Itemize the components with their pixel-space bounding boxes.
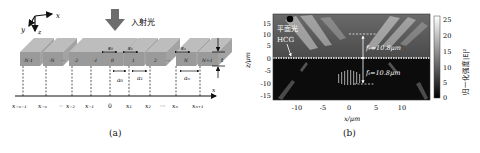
panel-b-caption: (b) [343, 128, 356, 138]
x-tick-label: -10 [292, 104, 302, 112]
annotation-plane-wave: 平面光 [277, 24, 298, 33]
y-tick-label: 15 [263, 20, 271, 28]
x-tick-label: x₋ₙ₋₁ [12, 102, 27, 109]
colorbar-label: 归一化强度|E|² [461, 49, 470, 95]
x-tick-labels: x₋ₙ₋₁ x₋ₙ ·· x₋₂ x₋₁ 0 x₁ x₂ ··· xₙ xₙ₊₁ [12, 102, 203, 109]
y-tick-label: -10 [261, 80, 271, 88]
y-tick-label: 0 [267, 55, 271, 63]
position-guide-lines [23, 66, 200, 96]
gap-label-a0: a₀ [117, 76, 124, 83]
width-label-s0: s₀ [108, 45, 114, 51]
x-tick-label: 10 [398, 104, 406, 112]
triad-x-label: x [56, 12, 60, 20]
colorbar-tick-label: 15 [443, 48, 451, 56]
bar-label: ··· [61, 58, 66, 63]
x-axis-label: x [212, 86, 216, 93]
incident-light-label: 入射光 [131, 17, 155, 27]
bar-label: 2 [153, 58, 157, 63]
bar-label: -2 [74, 58, 79, 63]
colorbar-tick-label: 10 [443, 64, 451, 72]
x-tick-label: x₋ₙ [38, 102, 48, 109]
gap-label-aN: aₙ [184, 74, 191, 81]
triad-y-label: y [20, 26, 26, 34]
y-tick-label: 5 [267, 42, 271, 50]
panel-a-grating-schematic: x y z 入射光 [0, 0, 240, 153]
bar-label: 0 [111, 58, 114, 63]
x-tick-label: xₙ [172, 102, 178, 109]
annotation-hcg: HCG [277, 36, 294, 44]
x-tick-label: -5 [320, 104, 326, 112]
panel-a-caption: (a) [109, 128, 121, 138]
bar-label: 1 [132, 58, 135, 63]
panel-b-field-intensity-map: 平面光 HCG fᵣ=10.8μm fₜ=10.8μm 15 10 5 0 -5… [240, 0, 480, 153]
x-tick-label: x₂ [145, 102, 151, 109]
x-tick-label: x₋₁ [85, 102, 94, 109]
colorbar-tick-label: 20 [443, 32, 451, 40]
incident-light-arrow-icon [105, 9, 125, 31]
gap-label-a1: a₁ [137, 74, 143, 81]
x-tick-label: 0 [108, 102, 112, 109]
x-tick-label: 0 [347, 104, 351, 112]
x-tick-label: ·· [59, 102, 63, 109]
x-axis-label: x/μm [344, 115, 360, 123]
x-tick-label: x₁ [126, 102, 132, 109]
triad-z-label: z [37, 28, 42, 35]
x-tick-label: 5 [374, 104, 378, 112]
trans-focus-label: fₜ=10.8μm [365, 69, 400, 77]
x-tick-label: ··· [160, 102, 166, 109]
width-label-s1: s₁ [128, 45, 133, 51]
y-tick-labels: 15 10 5 0 -5 -10 -15 [261, 20, 271, 100]
y-axis-label: z/μm [244, 52, 252, 69]
y-tick-label: 10 [263, 31, 271, 39]
bar-label: ··· [166, 58, 171, 63]
colorbar-tick-label: 25 [443, 16, 451, 24]
bar-label: -N-1 [23, 58, 33, 63]
colorbar-tick-label: 0 [443, 94, 447, 102]
colorbar [434, 16, 440, 98]
field-map-svg: 平面光 HCG fᵣ=10.8μm fₜ=10.8μm 15 10 5 0 -5… [240, 0, 480, 153]
width-label-sN: sₙ [181, 45, 186, 51]
y-tick-label: -5 [265, 67, 271, 75]
x-tick-label: xₙ₊₁ [192, 102, 203, 109]
x-tick-label: x₋₂ [66, 102, 76, 109]
bar-label: N+1 [201, 58, 213, 63]
colorbar-tick-label: 5 [443, 79, 447, 87]
colorbar-tick-labels: 25 20 15 10 5 0 [443, 16, 451, 102]
reflect-focus-label: fᵣ=10.8μm [365, 44, 401, 52]
bar-label: -1 [93, 58, 97, 63]
y-tick-label: -15 [261, 92, 271, 100]
x-tick-labels: -10 -5 0 5 10 [292, 104, 406, 112]
